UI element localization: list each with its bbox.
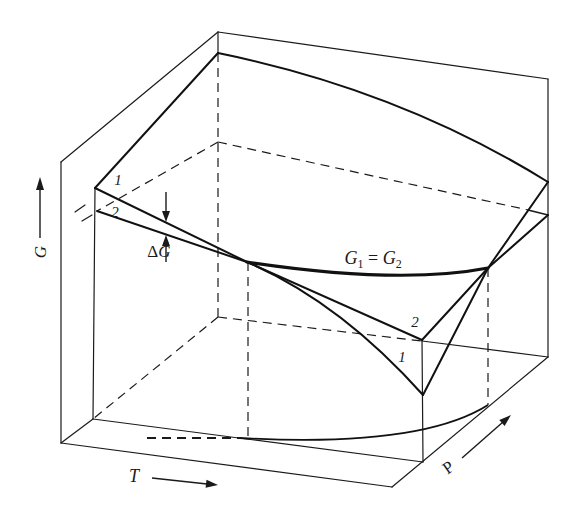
equilibrium-sub2: 2 (396, 257, 402, 271)
surface-2 (97, 211, 548, 340)
axis-arrows (36, 177, 511, 488)
back-base-left-dashed (93, 317, 218, 419)
surface1-left-edge (95, 53, 218, 188)
surface1-front-label: 1 (398, 349, 406, 365)
g-axis-arrow-up-icon (36, 177, 44, 190)
gibbs-surface-diagram: G T P 1 2 2 1 ΔG G1 = G2 (0, 0, 579, 511)
frame-bottom-left-connector (61, 419, 93, 443)
inner-left-vertical (93, 188, 95, 419)
frame-bottom-right-edge (392, 357, 548, 487)
equilibrium-projection-curve (240, 405, 488, 440)
p-axis-arrow-shaft (462, 422, 503, 458)
delta-symbol: Δ (147, 242, 158, 261)
t-axis-arrow-shaft (152, 478, 207, 484)
equilibrium-g1: G (345, 248, 358, 268)
frame-bottom-front-edge (61, 443, 392, 487)
equilibrium-g2: G (383, 248, 396, 268)
frame-top-left-edge (61, 32, 218, 162)
back-base-right-dashed (218, 317, 422, 341)
surface2-back-right-visible (528, 210, 548, 215)
surface1-extension-dash (75, 205, 85, 212)
surface1-right-edge (423, 182, 548, 395)
p-axis-label: P (439, 457, 458, 478)
inner-base-front-edge (93, 419, 423, 462)
surface2-left-label: 2 (111, 204, 119, 220)
t-axis-label: T (129, 466, 141, 486)
surface2-right-edge (422, 215, 548, 340)
inner-front-right-vertical (422, 340, 423, 462)
surface-1 (95, 53, 548, 395)
surface2-extension-dash (82, 215, 92, 221)
delta-g-label: ΔG (127, 242, 183, 261)
equilibrium-equals: = (364, 248, 383, 268)
delta-g-symbol: G (158, 242, 170, 261)
equilibrium-label: G1 = G2 (322, 248, 415, 272)
surface2-back-right-dashed (218, 142, 528, 210)
inner-box (93, 188, 548, 462)
surface2-front-label: 2 (411, 314, 419, 330)
inner-right-base-edge (422, 341, 548, 357)
g-axis-label: G (31, 246, 50, 258)
t-axis-arrow-right-icon (206, 480, 218, 488)
surface1-left-label: 1 (114, 172, 122, 188)
frame-top-back-edge (218, 32, 548, 79)
